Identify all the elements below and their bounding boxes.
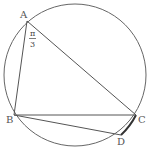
circumcircle: [4, 4, 146, 146]
angle-numerator: π: [30, 29, 35, 38]
point-label-b: B: [6, 114, 13, 125]
arc-cd: [121, 115, 136, 135]
angle-label-a: π 3: [29, 29, 36, 49]
point-label-a: A: [19, 9, 28, 20]
segment-bd: [14, 115, 121, 135]
segment-ac: [27, 21, 136, 115]
point-label-c: C: [138, 114, 146, 125]
angle-denominator: 3: [30, 40, 35, 49]
point-label-d: D: [117, 136, 125, 147]
geometry-diagram: A B C D π 3: [0, 0, 150, 155]
